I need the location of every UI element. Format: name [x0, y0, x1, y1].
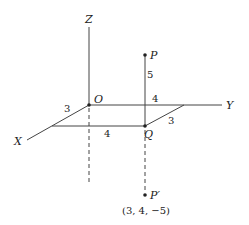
point-p-prime	[143, 193, 147, 197]
ox-length-label: 3	[64, 103, 70, 114]
coordinate-diagram: Z Y X O P Q P′ (3, 4, −5) 3 4 4 3 5	[0, 0, 249, 225]
origin-point	[87, 103, 91, 107]
point-q-label: Q	[144, 128, 153, 141]
point-p-prime-coords: (3, 4, −5)	[122, 205, 170, 216]
x-axis-label: X	[13, 135, 23, 148]
point-p-label: P	[149, 49, 158, 62]
y-axis-label: Y	[226, 99, 235, 112]
point-p-prime-label: P′	[149, 189, 160, 202]
oy-length-label: 4	[152, 93, 158, 104]
bottom-edge-length-label: 4	[104, 128, 110, 139]
right-edge-length-label: 3	[168, 115, 174, 126]
point-p	[143, 53, 147, 57]
z-axis-label: Z	[84, 13, 93, 26]
origin-label: O	[94, 93, 103, 106]
base-right-edge	[145, 105, 184, 126]
x-axis	[27, 105, 89, 140]
pq-length-label: 5	[147, 69, 153, 80]
